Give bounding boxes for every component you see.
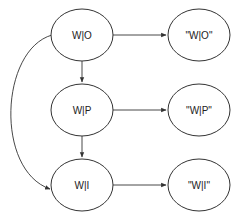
node-label: "W|I" [188,180,210,191]
node-label: "W|O" [186,30,213,41]
node-w-i: W|I [51,159,113,211]
diagram-canvas: W|O "W|O" W|P "W|P" W|I "W|I" [0,0,233,216]
node-label: W|P [73,105,92,116]
node-label: "W|P" [186,105,212,116]
node-w-o-quoted: "W|O" [168,9,230,61]
node-label: W|O [72,30,92,41]
node-w-p: W|P [51,84,113,136]
node-w-p-quoted: "W|P" [168,84,230,136]
node-w-o: W|O [51,9,113,61]
node-label: W|I [75,180,90,191]
edge-wo-to-wi-curved [11,35,52,189]
node-w-i-quoted: "W|I" [168,159,230,211]
